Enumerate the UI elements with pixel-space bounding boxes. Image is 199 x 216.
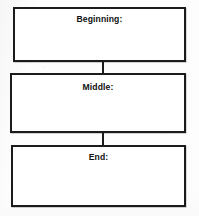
organizer-box-middle[interactable]: Middle:	[10, 73, 186, 133]
graphic-organizer: Beginning: Middle: End:	[0, 0, 199, 216]
organizer-box-beginning[interactable]: Beginning:	[13, 7, 186, 62]
organizer-box-end-label: End:	[13, 152, 184, 162]
organizer-box-end[interactable]: End:	[11, 145, 186, 207]
organizer-box-middle-label: Middle:	[12, 82, 184, 92]
organizer-box-beginning-label: Beginning:	[15, 14, 184, 24]
